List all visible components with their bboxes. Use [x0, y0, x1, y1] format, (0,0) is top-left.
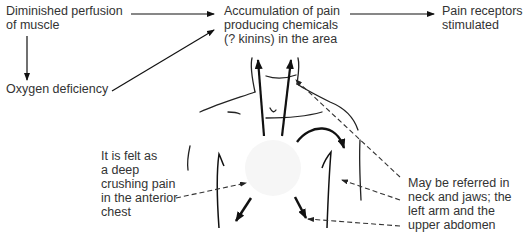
- chest-arrow-down-left: [236, 198, 251, 221]
- diagram-canvas: [0, 0, 525, 239]
- pointer-upper-abdomen: [308, 219, 400, 226]
- edge-oxygen-to-accumulation: [112, 30, 214, 91]
- pointer-anterior-chest: [176, 183, 246, 198]
- chest-arrow-down-right: [295, 197, 306, 218]
- pointer-neck-jaw: [296, 80, 400, 177]
- neck-arrow-left: [258, 60, 264, 136]
- right-arm-arrow: [217, 154, 224, 228]
- shoulder-curve-arrow: [297, 128, 344, 148]
- neck-arrow-right: [282, 60, 291, 136]
- pointer-left-arm: [342, 180, 400, 200]
- chest-pain-area: [245, 140, 301, 196]
- left-arm-arrow: [322, 152, 331, 228]
